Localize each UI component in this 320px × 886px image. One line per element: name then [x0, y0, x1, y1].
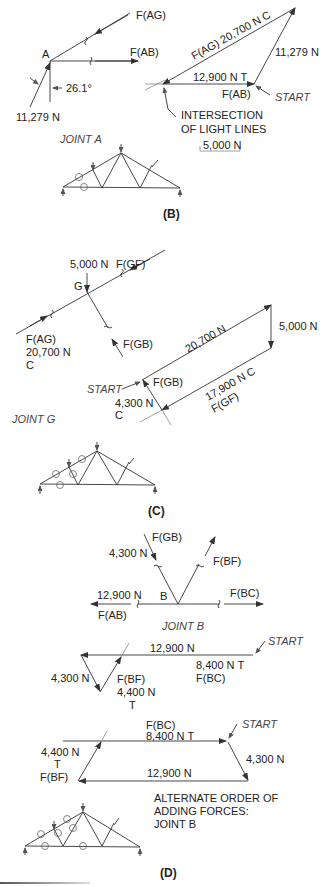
polygon-f-bc-label: F(BC): [196, 672, 225, 684]
polygon2-f-bf-label: F(BF): [40, 771, 68, 783]
panel-b: A F(AG) F(AB) 26.1° 11,279 N JOINT A F(A…: [16, 8, 319, 221]
f-ag-label: F(AG): [26, 333, 56, 345]
truss-webs: [54, 812, 114, 846]
note-line-1: ALTERNATE ORDER OF: [154, 792, 279, 804]
caption-b: (B): [163, 207, 180, 221]
f-ab-label: F(AB): [130, 46, 159, 58]
reaction-arrow: [30, 63, 50, 107]
f-gb-value: 4,300 N: [109, 547, 148, 559]
member-circle-marker: [70, 825, 77, 832]
note-line-1: INTERSECTION: [181, 109, 263, 121]
joint-g-label: JOINT G: [11, 413, 56, 425]
member-circle-marker: [57, 482, 64, 489]
angle-label: 26.1°: [66, 82, 92, 94]
break-symbol: [85, 37, 88, 45]
joint-a-force-polygon: F(AG) 20,700 N C 11,279 N 12,900 N T F(A…: [145, 8, 319, 151]
force-bf-arrow: [205, 537, 215, 556]
note-line-2: ADDING FORCES:: [154, 805, 249, 817]
light-line: [101, 731, 107, 742]
light-line: [162, 410, 171, 425]
caption-d: (D): [160, 866, 177, 880]
light-line: [140, 410, 162, 422]
start-pointer-arrow: [229, 724, 237, 738]
polygon2-bottom-value: 12,900 N: [147, 767, 192, 779]
joint-b-alternate-force-polygon: F(BC) 8,400 N T START 4,300 N 4,400 N T …: [40, 718, 285, 830]
note-line-2: OF LIGHT LINES: [181, 123, 266, 135]
polygon-f-ab-label: F(AB): [222, 88, 251, 100]
f-ag-label: F(AG): [136, 9, 166, 21]
node-g-label: G: [74, 280, 83, 292]
truss-key-diagram-c: [40, 442, 155, 494]
truss-webs: [93, 153, 152, 188]
node-a-label: A: [42, 48, 50, 60]
polygon-left-value: 4,300 N: [51, 672, 90, 684]
load-arrow: [129, 458, 134, 464]
polygon-f-bf-type: T: [129, 699, 136, 711]
f-ag-value: 20,700 N: [26, 346, 71, 358]
member-circle-marker: [80, 843, 87, 850]
truss-key-diagram-b: [63, 144, 180, 197]
polygon-reaction-label: 11,279 N: [275, 46, 319, 58]
polygon-load-label: 5,000 N: [279, 320, 318, 332]
break-symbol: [121, 269, 124, 277]
truss-outline: [40, 451, 155, 485]
truss-key-diagram-d: [25, 803, 140, 856]
f-ag-type: C: [26, 359, 34, 371]
start-label: START: [87, 383, 123, 395]
polygon-f-bc-value: 8,400 N T: [196, 659, 244, 671]
polygon-f-bf-value: 4,400 N: [117, 686, 156, 698]
f-ab-label: F(AB): [98, 609, 127, 621]
start-label: START: [242, 718, 278, 730]
light-line: [145, 80, 165, 90]
note-line-3: JOINT B: [154, 818, 196, 830]
start-pointer-arrow: [256, 86, 270, 95]
polygon-f-gb-label: F(GB): [153, 376, 183, 388]
f-bf-label: F(BF): [213, 555, 241, 567]
member-ag-line: [50, 13, 130, 61]
force-ag-arrow: [30, 316, 47, 326]
truss-webs: [69, 451, 129, 485]
joint-g-force-polygon: 20,700 N 5,000 N START F(GB) 4,300 N C 1…: [87, 305, 318, 425]
start-label: START: [275, 91, 311, 103]
truss-outline: [63, 153, 180, 188]
load-arrow: [114, 818, 119, 825]
member-bf-line: [178, 564, 199, 604]
panel-c: 5,000 N F(GF) G F(AG) 20,700 N C F(GB) J…: [11, 250, 318, 518]
f-gf-label: F(GF): [116, 258, 145, 270]
start-pointer-arrow: [122, 382, 140, 389]
member-circle-marker: [79, 456, 86, 463]
polygon2-f-bf-type: T: [54, 758, 61, 770]
member-circle-marker: [53, 471, 60, 478]
start-pointer-arrow: [256, 641, 265, 653]
force-gb-arrow: [112, 339, 123, 357]
joint-b-force-polygon: 12,900 N START 8,400 N T F(BC) 4,300 N F…: [51, 635, 304, 711]
polygon-f-bf-label: F(BF): [117, 673, 145, 685]
polygon-f-gb-arrow: [228, 742, 248, 780]
force-ag-arrow: [95, 15, 128, 34]
polygon-f-ag-label: F(AG) 20,700 N C: [189, 8, 272, 61]
polygon2-f-bf-value: 4,400 N: [41, 746, 80, 758]
member-gb-line: [87, 292, 108, 328]
polygon2-right-value: 4,300 N: [246, 753, 285, 765]
intersection-pointer-arrow: [164, 88, 176, 117]
load-arrow: [152, 160, 158, 167]
f-gb-label: F(GB): [152, 531, 182, 543]
f-bc-label: F(BC): [230, 587, 259, 599]
member-circle-marker: [76, 174, 83, 181]
joint-b-label: JOINT B: [161, 620, 204, 632]
truss-force-diagram: A F(AG) F(AB) 26.1° 11,279 N JOINT A F(A…: [0, 0, 320, 886]
load-label: 5,000 N: [70, 258, 109, 270]
polygon-top-value: 12,900 N: [150, 642, 195, 654]
pointer-arrow: [30, 78, 38, 84]
polygon-f-ab-value: 12,900 N T: [193, 71, 248, 83]
bottom-divider: [0, 882, 90, 884]
polygon-f-ag-value: 20,700 N: [183, 322, 228, 355]
joint-a-label: JOINT A: [59, 133, 102, 145]
member-circle-marker: [55, 830, 62, 837]
caption-c: (C): [148, 504, 165, 518]
polygon-f-bf-arrow: [78, 742, 101, 781]
joint-a-free-body-diagram: A F(AG) F(AB) 26.1° 11,279 N JOINT A: [16, 9, 166, 145]
reaction-label: 11,279 N: [16, 111, 60, 123]
joint-b-free-body-diagram: F(GB) 4,300 N F(BF) 12,900 N B F(BC) F(A…: [91, 531, 263, 632]
scale-label: 5,000 N: [203, 139, 242, 151]
